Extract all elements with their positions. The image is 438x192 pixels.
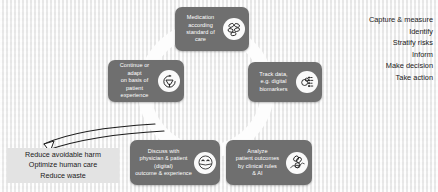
- cycle-node-discuss-label: Discuss with physician & patient (digita…: [134, 148, 193, 178]
- cycle-node-analyze-label: Analyze patient outcomes by clinical rul…: [230, 148, 285, 178]
- capability-list-item: Capture & measure: [313, 14, 433, 26]
- cycle-node-medication-label: Medication according standard of care: [179, 14, 222, 44]
- cycle-node-track-data[interactable]: Track data, e.g. digital biomarkers: [248, 62, 322, 102]
- analytics-icon: [286, 152, 308, 174]
- pills-icon: [223, 18, 245, 40]
- outcome-list-item: Reduce waste: [10, 171, 116, 181]
- diagram-slide: Medication according standard of care Tr…: [0, 0, 438, 192]
- cycle-node-discuss[interactable]: Discuss with physician & patient (digita…: [130, 140, 220, 185]
- cycle-node-track-data-label: Track data, e.g. digital biomarkers: [252, 71, 295, 93]
- capability-list-item: Identify: [313, 26, 433, 38]
- cycle-node-medication[interactable]: Medication according standard of care: [175, 7, 249, 51]
- capability-list-item: Make decision: [313, 60, 433, 72]
- cycle-node-continue-adapt-label: Continue or adapt on basis of patient ex…: [112, 62, 157, 99]
- capability-list: Capture & measure Identify Stratify risk…: [313, 14, 433, 84]
- refresh-cycle-icon: [158, 70, 180, 92]
- outcome-list-item: Optimize human care: [10, 160, 116, 170]
- outcome-list: Reduce avoidable harm Optimize human car…: [7, 148, 119, 183]
- capability-list-item: Inform: [313, 49, 433, 61]
- capability-list-item: Stratify risks: [313, 37, 433, 49]
- cycle-node-analyze[interactable]: Analyze patient outcomes by clinical rul…: [226, 140, 312, 185]
- patient-face-icon: [194, 152, 216, 174]
- cycle-node-continue-adapt[interactable]: Continue or adapt on basis of patient ex…: [108, 60, 184, 102]
- capability-list-item: Take action: [313, 72, 433, 84]
- outcome-list-item: Reduce avoidable harm: [10, 150, 116, 160]
